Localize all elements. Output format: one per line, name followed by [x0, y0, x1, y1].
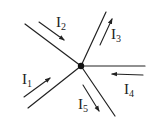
label-i1: I1 — [22, 71, 32, 89]
junction-diagram: I1 I2 I3 I4 I5 — [0, 0, 150, 121]
wires — [25, 12, 145, 116]
wire-lower-left — [28, 66, 81, 108]
wire-upper-left — [25, 24, 81, 66]
junction-node — [78, 63, 84, 69]
label-i3: I3 — [111, 26, 121, 44]
label-i5: I5 — [78, 96, 88, 114]
label-i4: I4 — [124, 81, 134, 99]
arrow-i4-icon — [112, 74, 143, 75]
label-i2: I2 — [56, 14, 66, 32]
